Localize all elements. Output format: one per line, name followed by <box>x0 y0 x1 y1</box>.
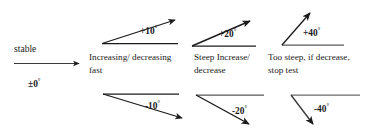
minus-40-degree-label: -40° <box>314 104 329 115</box>
plus-40-degree-value: +40 <box>303 28 318 38</box>
minus-40-degree-value: -40 <box>314 104 327 114</box>
angle-legend-diagram: stable ±0° +10° Increasing/ decreasing f… <box>0 0 379 140</box>
plus-10-degree-value: +10 <box>140 26 155 36</box>
too-steep-caption-line1: Too steep, if decrease, <box>268 52 350 62</box>
minus-10-arrow <box>103 94 182 118</box>
plus-10-degree-symbol: ° <box>155 24 158 31</box>
angle-arrows-svg <box>0 0 379 140</box>
minus-10-degree-value: -10 <box>145 101 158 111</box>
minus-20-degree-label: -20° <box>232 106 247 117</box>
plus-20-degree-symbol: ° <box>234 27 237 34</box>
minus-20-degree-symbol: ° <box>245 104 248 111</box>
minus-40-degree-symbol: ° <box>327 102 330 109</box>
moderate-caption-line2: fast <box>89 65 102 75</box>
plus-40-degree-label: +40° <box>303 28 320 39</box>
zero-degree-label: ±0° <box>28 79 40 90</box>
steep-caption-line2: decrease <box>194 65 226 75</box>
plus-20-degree-value: +20 <box>219 29 234 39</box>
zero-degree-value: ±0 <box>28 79 38 89</box>
minus-10-degree-symbol: ° <box>158 99 161 106</box>
plus-10-arrow <box>102 20 175 44</box>
plus-10-degree-label: +10° <box>140 26 157 37</box>
plus-40-degree-symbol: ° <box>318 26 321 33</box>
minus-20-degree-value: -20 <box>232 106 245 116</box>
minus-40-arrow <box>291 95 313 124</box>
plus-20-degree-label: +20° <box>219 29 236 40</box>
minus-10-degree-label: -10° <box>145 101 160 112</box>
moderate-caption-line1: Increasing/ decreasing <box>89 52 171 62</box>
zero-degree-symbol: ° <box>38 77 41 84</box>
steep-caption-line1: Steep Increase/ <box>194 52 250 62</box>
too-steep-caption-line2: stop test <box>268 65 298 75</box>
stable-caption: stable <box>14 44 36 55</box>
